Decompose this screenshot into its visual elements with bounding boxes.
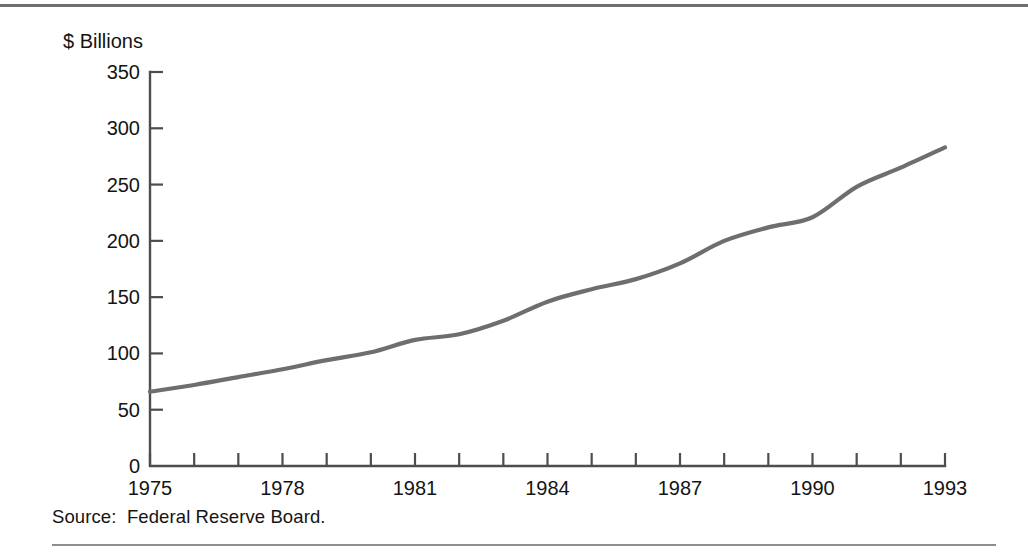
line-chart: $ Billions 050100150200250300350 1975197… <box>0 0 1028 500</box>
chart-plot-area: $ Billions 050100150200250300350 1975197… <box>0 0 1028 500</box>
y-tick-label: 200 <box>107 230 140 252</box>
source-note: Source: Federal Reserve Board. <box>52 506 326 528</box>
x-tick-label: 1993 <box>923 477 968 499</box>
y-axis-ticks: 050100150200250300350 <box>107 61 163 477</box>
y-tick-label: 50 <box>118 399 140 421</box>
x-tick-label: 1990 <box>790 477 835 499</box>
axis-lines <box>150 72 945 466</box>
y-tick-label: 0 <box>129 455 140 477</box>
y-tick-label: 300 <box>107 117 140 139</box>
y-tick-label: 250 <box>107 174 140 196</box>
y-tick-label: 350 <box>107 61 140 83</box>
figure-container: $ Billions 050100150200250300350 1975197… <box>0 0 1028 558</box>
x-tick-label: 1987 <box>658 477 703 499</box>
x-tick-label: 1978 <box>260 477 305 499</box>
x-tick-label: 1975 <box>128 477 173 499</box>
bottom-divider-rule <box>52 544 996 546</box>
x-tick-label: 1981 <box>393 477 438 499</box>
x-axis-ticks: 1975197819811984198719901993 <box>128 453 968 499</box>
y-tick-label: 100 <box>107 342 140 364</box>
y-axis-title: $ Billions <box>63 30 143 52</box>
x-tick-label: 1984 <box>525 477 570 499</box>
data-series-line <box>150 147 945 391</box>
y-tick-label: 150 <box>107 286 140 308</box>
